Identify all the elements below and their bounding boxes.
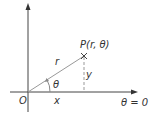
horizontal-axis-arrowhead	[131, 90, 138, 95]
angle-label: θ	[53, 80, 59, 90]
angle-arc	[47, 80, 50, 92]
polar-axis-label: θ = 0	[121, 98, 148, 108]
x-label: x	[54, 96, 60, 106]
vertical-axis-arrowhead	[26, 3, 31, 10]
point-label: P(r, θ)	[80, 40, 110, 50]
radius-label: r	[55, 57, 59, 67]
origin-label: O	[19, 96, 27, 106]
y-label: y	[86, 70, 92, 80]
